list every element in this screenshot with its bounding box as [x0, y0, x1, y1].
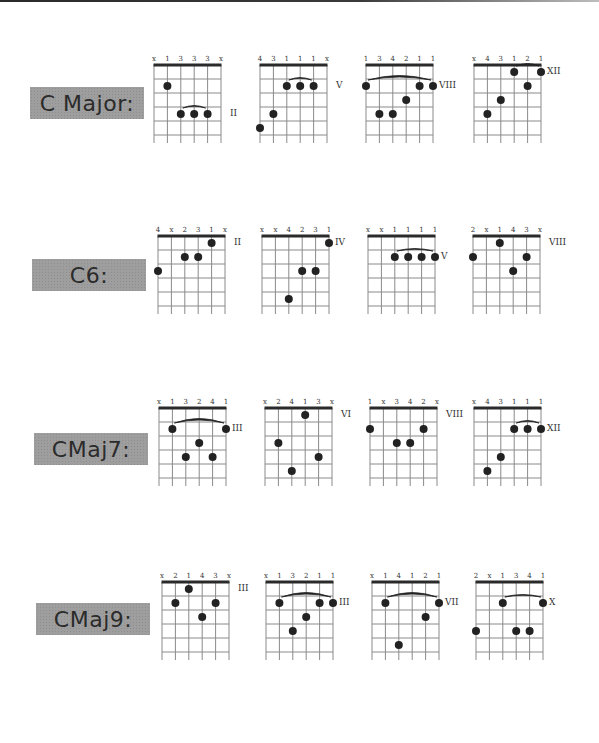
muted-string-mark: x	[260, 226, 264, 234]
finger-dot	[537, 425, 545, 433]
finger-number: 2	[525, 55, 529, 63]
finger-number: 4	[527, 572, 532, 580]
finger-number: 3	[213, 572, 217, 580]
chord-label-c6: C6:	[32, 259, 146, 291]
chord-label-cmaj9: CMaj9:	[36, 603, 150, 635]
finger-dot	[283, 82, 291, 90]
finger-number: 2	[173, 572, 177, 580]
muted-string-mark: x	[160, 572, 164, 580]
nut	[368, 235, 436, 238]
muted-string-mark: x	[264, 572, 268, 580]
finger-dot	[497, 453, 505, 461]
finger-number: 3	[179, 55, 183, 63]
chord-diagram: x2413xVI	[265, 396, 365, 496]
finger-dot	[496, 239, 504, 247]
finger-number: 1	[317, 572, 321, 580]
muted-string-mark: x	[227, 572, 231, 580]
chord-diagram: x13241III	[159, 396, 259, 496]
finger-dot	[269, 110, 277, 118]
finger-dot	[301, 411, 309, 419]
nut	[366, 64, 434, 67]
finger-dot	[198, 613, 206, 621]
muted-string-mark: x	[219, 55, 223, 63]
finger-number: 4	[210, 398, 215, 406]
finger-dot	[391, 253, 399, 261]
finger-dot	[404, 253, 412, 261]
finger-dot	[285, 295, 293, 303]
finger-number: 1	[165, 55, 169, 63]
chord-diagram: 134211VIII	[366, 53, 466, 153]
finger-dot	[154, 267, 162, 275]
finger-dot	[526, 627, 534, 635]
finger-dot	[418, 253, 426, 261]
finger-number: 1	[364, 55, 368, 63]
finger-number: 1	[383, 572, 387, 580]
finger-number: 1	[539, 398, 543, 406]
finger-number: 1	[311, 55, 315, 63]
chord-diagram: x14121VII	[372, 570, 472, 670]
chord-diagram: 2x143xVIII	[473, 224, 573, 324]
finger-number: 3	[291, 572, 295, 580]
finger-dot	[177, 110, 185, 118]
finger-dot	[422, 613, 430, 621]
finger-number: 3	[499, 398, 503, 406]
muted-string-mark: x	[484, 226, 488, 234]
finger-number: 1	[393, 226, 397, 234]
finger-number: 4	[408, 398, 413, 406]
finger-dot	[195, 439, 203, 447]
finger-dot	[395, 641, 403, 649]
finger-number: 1	[209, 226, 213, 234]
muted-string-mark: x	[330, 398, 334, 406]
finger-number: 1	[277, 572, 281, 580]
finger-dot	[212, 599, 220, 607]
finger-number: 4	[391, 55, 396, 63]
nut	[158, 235, 226, 238]
finger-number: 4	[397, 572, 402, 580]
finger-number: 1	[419, 226, 423, 234]
finger-dot	[185, 585, 193, 593]
chord-diagram: 1x342xVIII	[370, 396, 470, 496]
finger-number: 1	[170, 398, 174, 406]
finger-dot	[510, 68, 518, 76]
chord-diagram: 2x1341X	[476, 570, 576, 670]
finger-number: 1	[501, 572, 505, 580]
finger-number: 4	[258, 55, 263, 63]
fret-position-label: II	[234, 237, 241, 247]
chord-diagram: x43121XII	[474, 53, 574, 153]
finger-dot	[302, 613, 310, 621]
fret-position-label: V	[336, 80, 343, 90]
chord-diagram: xx4231IV	[262, 224, 362, 324]
fret-position-label: III	[339, 597, 350, 607]
finger-dot	[375, 110, 383, 118]
finger-number: 3	[271, 55, 275, 63]
nut	[372, 581, 440, 584]
fret-position-label: XII	[547, 66, 561, 76]
nut	[154, 64, 222, 67]
finger-number: 1	[224, 398, 228, 406]
finger-dot	[512, 627, 520, 635]
finger-number: 3	[316, 398, 320, 406]
finger-number: 2	[183, 226, 187, 234]
finger-number: 4	[156, 226, 161, 234]
finger-number: 1	[512, 55, 516, 63]
finger-number: 2	[276, 398, 280, 406]
chord-diagram: 4x231xII	[158, 224, 258, 324]
finger-dot	[539, 599, 547, 607]
finger-number: 2	[423, 572, 427, 580]
page-top-rule	[0, 0, 599, 2]
finger-dot	[483, 467, 491, 475]
finger-dot	[329, 599, 337, 607]
finger-dot	[274, 439, 282, 447]
finger-number: 1	[437, 572, 441, 580]
finger-dot	[523, 253, 531, 261]
finger-number: 1	[327, 226, 331, 234]
fret-position-label: IV	[335, 237, 345, 247]
finger-dot	[469, 253, 477, 261]
finger-dot	[416, 82, 424, 90]
finger-number: 4	[200, 572, 205, 580]
finger-number: 4	[290, 398, 295, 406]
muted-string-mark: x	[273, 226, 277, 234]
finger-dot	[181, 253, 189, 261]
finger-dot	[524, 425, 532, 433]
finger-dot	[366, 425, 374, 433]
